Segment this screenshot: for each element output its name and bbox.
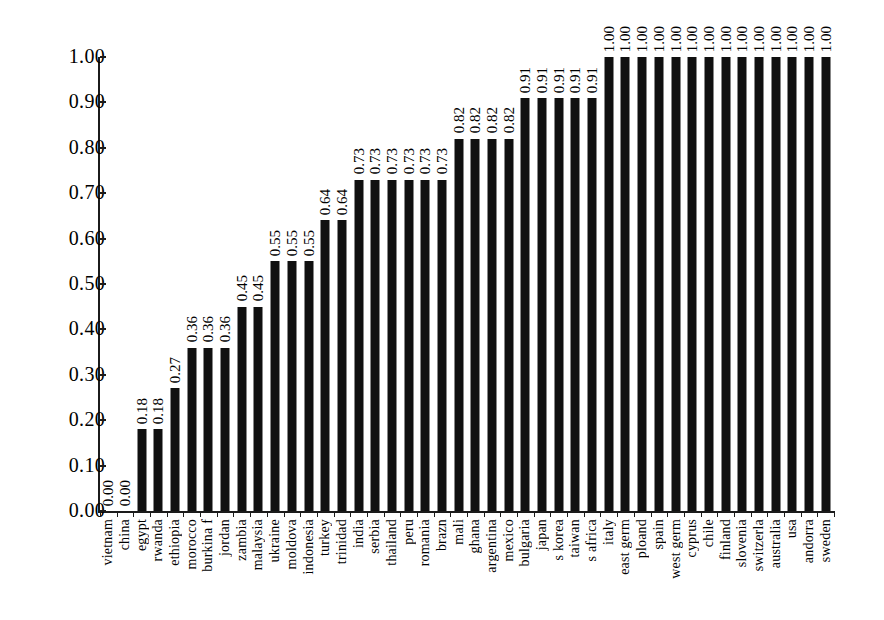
bar-value-label: 1.00 [735,8,750,52]
x-axis-tick-mark [417,511,418,517]
bar[interactable] [621,57,630,511]
bar-slot: 0.45 [233,57,250,511]
x-axis-tick-mark [250,511,251,517]
bar-value-text: 0.82 [468,107,483,133]
bar-value-label: 1.00 [751,8,766,52]
bar-value-label: 0.82 [451,90,466,134]
bar-slot: 1.00 [651,57,668,511]
bar-slot: 0.82 [484,57,501,511]
x-axis-category-label: bulgaria [518,519,532,566]
bar-value-text: 0.45 [234,275,249,301]
bar-value-label: 0.73 [384,131,399,175]
bar[interactable] [154,429,163,511]
bar-slot: 1.00 [784,57,801,511]
bar-value-label: 0.73 [351,131,366,175]
x-axis-category-label: peru [402,519,416,545]
bar-value-text: 0.73 [368,148,383,174]
bar[interactable] [204,348,213,511]
bar[interactable] [337,220,346,511]
bar[interactable] [371,180,380,511]
bar[interactable] [788,57,797,511]
bar[interactable] [588,98,597,511]
x-axis-category-label: sweden [819,519,833,562]
bar[interactable] [721,57,730,511]
bar[interactable] [171,388,180,511]
bar[interactable] [287,261,296,511]
bar[interactable] [771,57,780,511]
bar[interactable] [671,57,680,511]
x-axis-tick-mark [384,511,385,517]
x-axis-tick-mark [801,511,802,517]
bar-slot: 0.64 [334,57,351,511]
bar-value-label: 0.73 [368,131,383,175]
bar[interactable] [504,139,513,511]
bar[interactable] [454,139,463,511]
x-axis-category-label: argentina [485,519,499,573]
x-axis-category-label: mali [452,519,466,545]
bar[interactable] [488,139,497,511]
bar[interactable] [321,220,330,511]
bar[interactable] [421,180,430,511]
bar[interactable] [437,180,446,511]
bar[interactable] [304,261,313,511]
bar-slot: 0.36 [217,57,234,511]
bar[interactable] [538,98,547,511]
bar[interactable] [387,180,396,511]
bar-value-label: 0.36 [218,299,233,343]
x-axis-tick-mark [117,511,118,517]
bar-value-text: 0.45 [251,275,266,301]
bar[interactable] [271,261,280,511]
bar-value-text: 0.91 [551,67,566,93]
bar[interactable] [137,429,146,511]
bar[interactable] [638,57,647,511]
bar-value-text: 0.55 [284,230,299,256]
x-axis-category-label: malaysia [251,519,265,570]
bar[interactable] [688,57,697,511]
bar-slot: 1.00 [751,57,768,511]
bar[interactable] [704,57,713,511]
bar[interactable] [571,98,580,511]
bar[interactable] [471,139,480,511]
x-axis-tick-mark [434,511,435,517]
bar[interactable] [521,98,530,511]
x-axis-category-label: taiwan [568,519,582,558]
bar-slot: 0.18 [133,57,150,511]
x-axis-category-label: indonesia [302,519,316,574]
bar-slot: 0.73 [384,57,401,511]
bar[interactable] [254,307,263,511]
bar[interactable] [754,57,763,511]
bar-value-label: 0.73 [418,131,433,175]
bar[interactable] [221,348,230,511]
bar-slot: 0.73 [400,57,417,511]
x-axis-tick-mark [651,511,652,517]
x-axis-tick-mark [817,511,818,517]
bar-slot: 0.91 [567,57,584,511]
bar[interactable] [804,57,813,511]
bar[interactable] [654,57,663,511]
bar-slot: 0.18 [150,57,167,511]
x-axis-tick-mark [467,511,468,517]
x-axis-category-label: slovenia [735,519,749,567]
x-axis-category-label: brazn [435,519,449,551]
bar[interactable] [554,98,563,511]
bar[interactable] [354,180,363,511]
bar[interactable] [821,57,830,511]
x-axis-tick-mark [617,511,618,517]
x-axis-category-label: zambia [235,519,249,561]
bar-value-label: 1.00 [801,8,816,52]
bar-value-label: 1.00 [701,8,716,52]
bar-value-label: 1.00 [651,8,666,52]
bar-value-label: 0.45 [251,258,266,302]
bar-value-label: 0.36 [201,299,216,343]
bar[interactable] [738,57,747,511]
x-axis-category-label: moldova [285,519,299,569]
bar[interactable] [604,57,613,511]
bar[interactable] [404,180,413,511]
x-axis-category-label: india [352,519,366,548]
bar-value-text: 1.00 [818,26,833,52]
bar[interactable] [187,348,196,511]
x-axis-category-label: s africa [585,519,599,561]
bar[interactable] [237,307,246,511]
bar-value-text: 1.00 [685,26,700,52]
x-axis-category-label: thailand [385,519,399,566]
